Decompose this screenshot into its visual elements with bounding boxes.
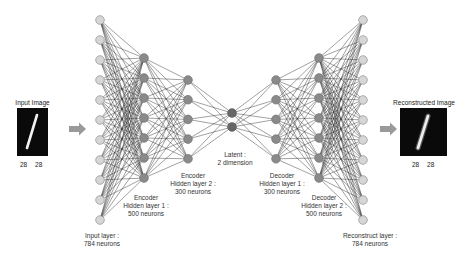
output-arrow-icon [380,123,397,136]
output-neuron [359,116,368,125]
input-neuron [96,136,105,145]
output-neuron [359,136,368,145]
reconstruct-layer-label: Reconstruct layer : 784 neurons [338,232,402,248]
input-digit-image [17,108,48,156]
input-neuron [96,176,105,185]
enc1-neuron [140,54,149,63]
dec1-neuron [272,115,281,124]
input-neuron [96,96,105,105]
input-arrow-icon [69,123,86,136]
connections [100,20,363,220]
output-neuron [359,76,368,85]
input-layer-label: Input layer : 784 neurons [82,232,122,248]
enc1-neuron [140,134,149,143]
enc1-neuron [140,114,149,123]
dec1-neuron [272,95,281,104]
latent-neuron [228,123,237,132]
input-neuron [96,116,105,125]
input-neuron [96,156,105,165]
output-neuron [359,36,368,45]
dec2-neuron [315,54,324,63]
input-image-caption: Input Image [10,99,55,106]
autoencoder-network [0,0,467,258]
input-image-dims: 28 28 [20,161,42,168]
input-neuron [96,56,105,65]
output-neuron [359,196,368,205]
enc2-neuron [184,115,193,124]
reconstructed-digit-image [400,108,447,156]
input-neuron [96,196,105,205]
neurons [96,16,368,225]
output-image-caption: Reconstructed Image [393,99,455,106]
decoder-hidden2-label: Decoder Hidden layer 2 : 500 neurons [296,194,352,218]
encoder-hidden1-label: Encoder Hidden layer 1 : 500 neurons [118,194,174,218]
enc2-neuron [184,135,193,144]
dec2-neuron [315,134,324,143]
enc1-neuron [140,154,149,163]
enc2-neuron [184,95,193,104]
output-neuron [359,56,368,65]
input-neuron [96,36,105,45]
decoder-hidden1-label: Decoder Hidden layer 1 : 300 neurons [254,172,310,196]
dec1-neuron [272,76,281,85]
output-neuron [359,156,368,165]
enc2-neuron [184,76,193,85]
dec1-neuron [272,155,281,164]
latent-neuron [228,109,237,118]
input-neuron [96,76,105,85]
dec2-neuron [315,154,324,163]
enc1-neuron [140,94,149,103]
input-neuron [96,16,105,25]
output-image-dims: 28 28 [412,161,434,168]
dec1-neuron [272,135,281,144]
enc1-neuron [140,74,149,83]
dec2-neuron [315,114,324,123]
output-neuron [359,16,368,25]
enc1-neuron [140,174,149,183]
dec2-neuron [315,74,324,83]
output-neuron [359,216,368,225]
output-neuron [359,176,368,185]
input-neuron [96,216,105,225]
enc2-neuron [184,155,193,164]
dec2-neuron [315,94,324,103]
encoder-hidden2-label: Encoder Hidden layer 2 : 300 neurons [165,172,221,196]
dec2-neuron [315,174,324,183]
latent-label: Latent : 2 dimension [212,151,258,167]
output-neuron [359,96,368,105]
